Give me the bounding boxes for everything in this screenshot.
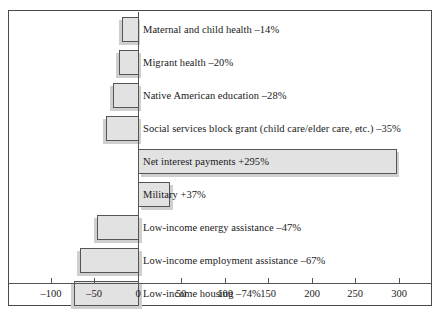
bar-label-social-services-block-grant: Social services block grant (child care/… <box>143 123 401 134</box>
zero-axis-line <box>138 12 139 283</box>
axis-tick <box>138 278 139 283</box>
bar-maternal-and-child-health <box>122 17 139 42</box>
axis-tick <box>355 278 356 283</box>
axis-tick <box>268 278 269 283</box>
bar-label-military: Military +37% <box>143 189 206 200</box>
bar-social-services-block-grant <box>106 116 139 141</box>
bar-migrant-health <box>119 50 139 75</box>
axis-tick <box>399 278 400 283</box>
axis-tick-label: –100 <box>31 288 71 299</box>
axis-tick <box>312 278 313 283</box>
axis-tick-label: 300 <box>379 288 419 299</box>
bar-label-native-american-education: Native American education –28% <box>143 90 287 101</box>
axis-tick-label: 50 <box>161 288 201 299</box>
axis-tick <box>51 278 52 283</box>
axis-tick-label: 200 <box>292 288 332 299</box>
chart-figure: Maternal and child health –14% Migrant h… <box>0 0 446 311</box>
axis-tick-label: 150 <box>248 288 288 299</box>
bar-label-maternal-and-child-health: Maternal and child health –14% <box>143 24 279 35</box>
bar-label-low-income-energy-assistance: Low-income energy assistance –47% <box>143 222 301 233</box>
bar-native-american-education <box>113 83 139 108</box>
bar-low-income-employment-assistance <box>80 248 139 273</box>
axis-tick-label: 0 <box>118 288 158 299</box>
plot-area: Maternal and child health –14% Migrant h… <box>0 0 446 311</box>
axis-tick <box>181 278 182 283</box>
bar-label-low-income-employment-assistance: Low-income employment assistance –67% <box>143 255 325 266</box>
bar-label-net-interest-payments: Net interest payments +295% <box>143 156 269 167</box>
axis-tick-label: –50 <box>74 288 114 299</box>
bar-low-income-energy-assistance <box>97 215 139 240</box>
value-axis-line <box>9 283 431 284</box>
axis-tick-label: 100 <box>205 288 245 299</box>
axis-tick-label: 250 <box>335 288 375 299</box>
axis-tick <box>225 278 226 283</box>
bar-label-migrant-health: Migrant health –20% <box>143 57 233 68</box>
axis-tick <box>94 278 95 283</box>
